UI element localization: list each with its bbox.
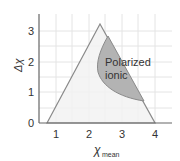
y-tick-label: 1 xyxy=(28,86,34,98)
region-label-line2: ionic xyxy=(105,69,128,81)
x-tick-label: 4 xyxy=(152,128,158,140)
y-tick-label: 0 xyxy=(28,117,34,129)
chart-container: Polarized ionic 3 2 1 0 1 2 3 4 Δχ χ mea… xyxy=(0,0,180,161)
x-tick-label: 1 xyxy=(53,128,59,140)
x-axis-label: χ xyxy=(93,143,101,157)
y-tick-label: 3 xyxy=(28,25,34,37)
y-axis-label: Δχ xyxy=(12,58,24,73)
y-tick-label: 2 xyxy=(28,56,34,68)
x-axis-label-subscript: mean xyxy=(102,151,120,158)
x-tick-label: 3 xyxy=(119,128,125,140)
region-label-line1: Polarized xyxy=(105,56,151,68)
x-tick-label: 2 xyxy=(86,128,92,140)
van-arkel-ketelaar-plot: Polarized ionic 3 2 1 0 1 2 3 4 Δχ χ mea… xyxy=(0,0,180,161)
